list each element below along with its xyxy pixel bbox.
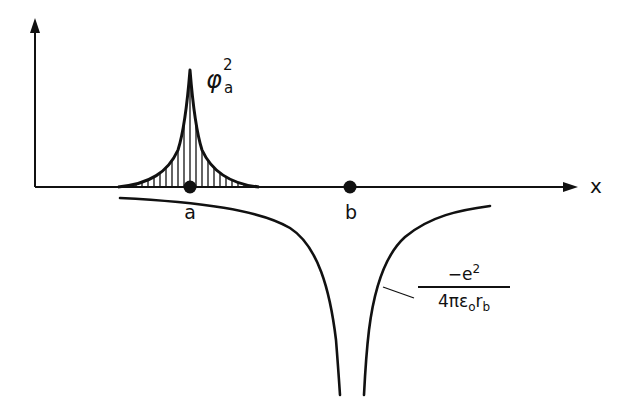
atom-b-dot [344, 181, 357, 194]
atom-b-label: b [345, 203, 357, 222]
potential-left-branch [120, 198, 340, 395]
potential-numerator: −e2 [448, 264, 480, 286]
y-axis [30, 18, 40, 187]
numerator-superscript: 2 [473, 262, 481, 276]
peak-outline [118, 70, 259, 187]
wavefunction-label: φ 2 a [206, 68, 222, 92]
denominator-subscript-epsilon: o [468, 300, 475, 314]
atom-a-label: a [184, 203, 196, 222]
wavefunction-subscript: a [224, 81, 233, 96]
diagram-canvas [0, 0, 638, 419]
potential-leader-line [383, 287, 414, 298]
x-axis-arrow-icon [563, 182, 578, 192]
potential-denominator: 4πεorb [438, 288, 490, 311]
wavefunction-peak [118, 60, 259, 190]
denominator-subscript-r: b [482, 300, 490, 314]
numerator-text: −e [448, 264, 473, 284]
x-axis-label: x [590, 176, 602, 196]
atom-a-dot [184, 181, 197, 194]
y-axis-arrow-icon [30, 18, 40, 33]
wavefunction-superscript: 2 [223, 58, 233, 73]
denominator-text: 4πε [438, 291, 468, 311]
potential-label: −e2 4πεorb [417, 264, 511, 311]
x-axis [35, 182, 578, 192]
wavefunction-symbol: φ [206, 66, 222, 94]
